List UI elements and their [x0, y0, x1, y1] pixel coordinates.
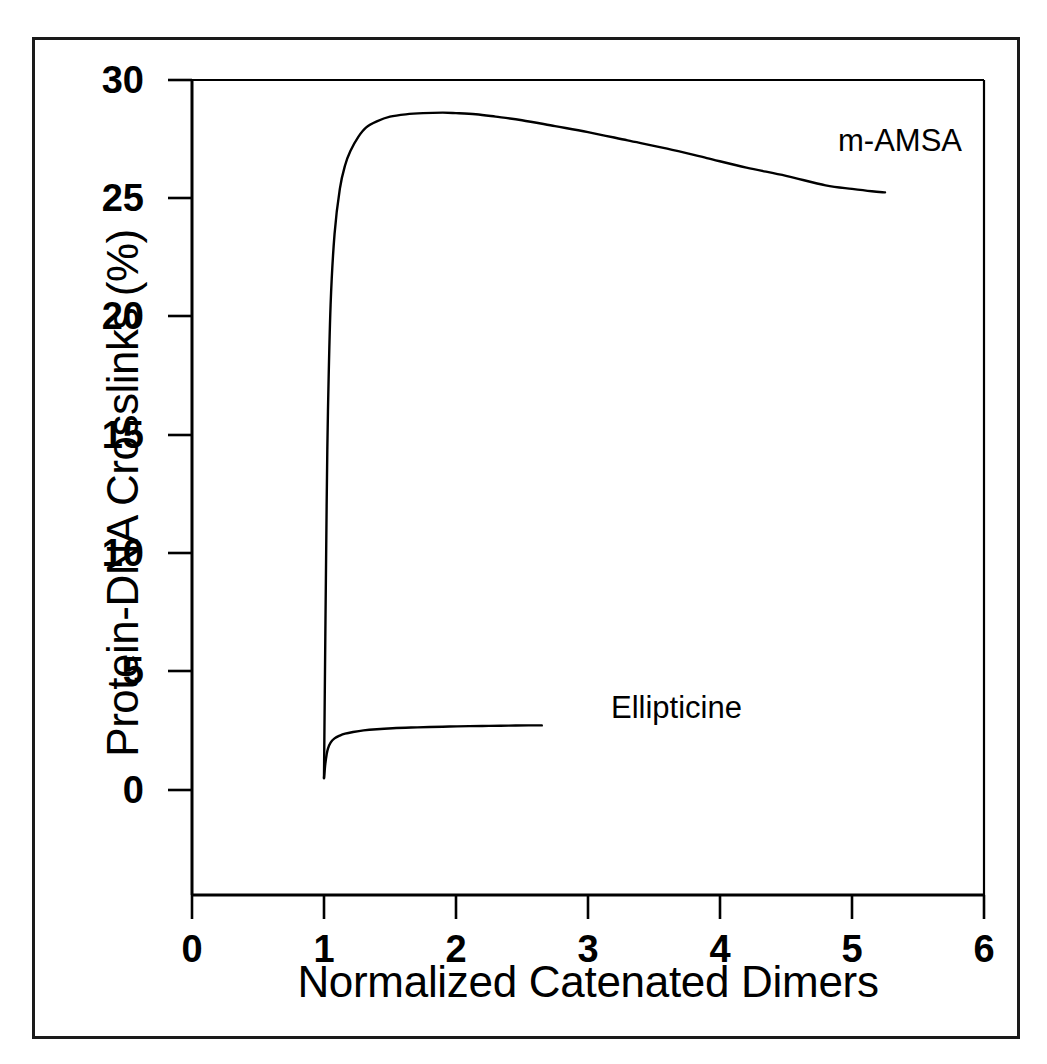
plot-area: [0, 0, 1047, 1064]
axis-lines: [192, 80, 984, 895]
series-label-m-amsa: m-AMSA: [838, 123, 962, 159]
curve-m-amsa: [324, 113, 885, 779]
figure-canvas: 30 25 20 15 10 5 0 0 1 2 3 4 5 6 Protein…: [0, 0, 1047, 1064]
y-axis-ticks: [168, 80, 192, 790]
data-curves: [324, 113, 885, 779]
x-axis-title: Normalized Catenated Dimers: [192, 957, 984, 1007]
ytick-label-30: 30: [60, 61, 144, 99]
curve-ellipticine: [324, 725, 542, 778]
y-axis-title: Protein-DNA Crosslinks (%): [98, 143, 148, 843]
x-axis-ticks: [192, 895, 984, 919]
series-label-ellipticine: Ellipticine: [611, 690, 742, 726]
